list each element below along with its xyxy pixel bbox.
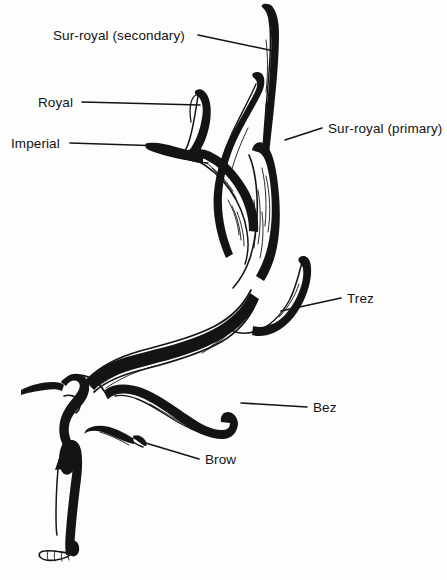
label-sur-royal-secondary: Sur-royal (secondary) xyxy=(53,28,185,43)
label-sur-royal-primary: Sur-royal (primary) xyxy=(328,121,442,136)
antler-diagram: Sur-royal (secondary) Royal Imperial Sur… xyxy=(0,0,447,580)
label-trez: Trez xyxy=(347,291,374,306)
diagram-background xyxy=(0,0,447,580)
antler-illustration: Sur-royal (secondary) Royal Imperial Sur… xyxy=(0,0,447,580)
label-imperial: Imperial xyxy=(11,136,60,151)
label-royal: Royal xyxy=(38,95,73,110)
label-bez: Bez xyxy=(313,400,337,415)
label-brow: Brow xyxy=(205,452,236,467)
